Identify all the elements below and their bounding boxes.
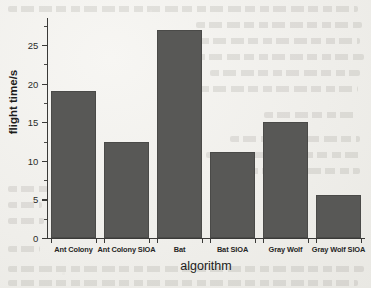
x-category-label: Gray Wolf SIOA — [312, 245, 366, 254]
x-category-label: Gray Wolf — [269, 245, 303, 254]
x-tick — [96, 238, 97, 243]
y-axis-title: flight time/s — [7, 62, 19, 142]
x-tick — [308, 238, 309, 243]
y-tick-label: 10 — [28, 155, 38, 166]
bar — [210, 152, 255, 238]
bar — [51, 91, 96, 238]
x-tick — [263, 238, 264, 243]
x-tick — [202, 238, 203, 243]
x-tick — [149, 238, 150, 243]
y-tick-label: 5 — [33, 194, 38, 205]
bar-series — [47, 18, 365, 238]
plot-area: 0510152025 Ant ColonyAnt Colony SIOABatB… — [47, 18, 365, 238]
x-tick — [316, 238, 317, 243]
y-tick-label: 0 — [33, 233, 38, 244]
y-tick-label: 20 — [28, 78, 38, 89]
bar — [263, 122, 308, 238]
x-category-label: Ant Colony SIOA — [97, 245, 155, 254]
scanned-page-background: flight time/s 0510152025 Ant ColonyAnt C… — [0, 0, 371, 288]
bar — [104, 142, 149, 238]
x-category-label: Bat — [174, 245, 186, 254]
y-tick-0: 0 — [42, 238, 47, 239]
x-category-label: Bat SIOA — [217, 245, 248, 254]
x-axis-line — [47, 238, 365, 239]
y-tick-label: 15 — [28, 117, 38, 128]
y-tick-label: 25 — [28, 40, 38, 51]
x-axis-title: algorithm — [47, 259, 365, 273]
x-tick — [361, 238, 362, 243]
x-tick — [104, 238, 105, 243]
bar — [316, 195, 361, 238]
x-category-label: Ant Colony — [54, 245, 92, 254]
bar — [157, 30, 202, 238]
x-tick — [51, 238, 52, 243]
x-tick — [210, 238, 211, 243]
x-tick — [255, 238, 256, 243]
bar-chart: flight time/s 0510152025 Ant ColonyAnt C… — [0, 0, 371, 288]
x-tick — [157, 238, 158, 243]
